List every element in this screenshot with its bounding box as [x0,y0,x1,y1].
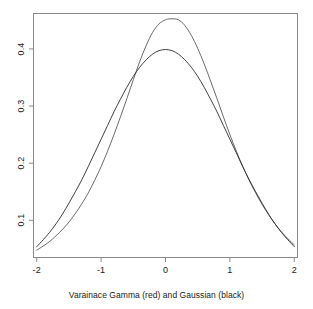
data-curves [37,19,295,250]
y-tick-label: 0.3 [16,92,26,120]
density-curve [37,50,295,247]
plot-canvas [0,0,313,309]
x-tick-label: -2 [22,265,52,275]
y-tick-label: 0.1 [16,206,26,234]
plot-area: -2-1012 0.10.20.30.4 [0,0,313,309]
plot-screenshot: -2-1012 0.10.20.30.4 Varainace Gamma (re… [0,0,313,309]
y-tick-label: 0.2 [16,149,26,177]
y-axis-ticks [29,49,34,220]
x-tick-label: 2 [279,265,309,275]
x-tick-label: -1 [86,265,116,275]
x-tick-label: 0 [151,265,181,275]
plot-box-frame [34,14,298,258]
x-axis-ticks [37,258,295,263]
x-tick-label: 1 [215,265,245,275]
plot-caption: Varainace Gamma (red) and Gaussian (blac… [0,290,313,300]
y-tick-label: 0.4 [16,35,26,63]
density-curve [37,19,295,250]
